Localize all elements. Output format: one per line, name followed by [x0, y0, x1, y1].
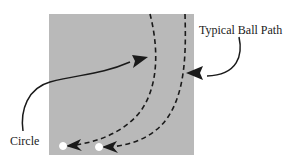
path-callout-arrow — [207, 37, 240, 76]
ball-circle-left — [60, 143, 67, 150]
field-area — [49, 14, 194, 155]
circle-label: Circle — [10, 135, 39, 147]
typical-ball-path-label: Typical Ball Path — [199, 24, 282, 36]
ball-circle-right — [96, 144, 103, 151]
